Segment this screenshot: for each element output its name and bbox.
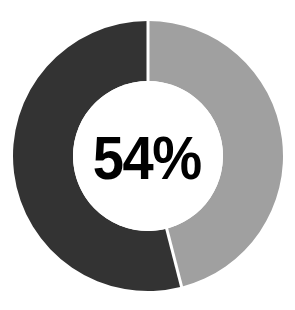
donut-chart: 54% — [0, 0, 295, 310]
donut-hole — [73, 81, 223, 231]
donut-chart-svg — [0, 0, 295, 310]
